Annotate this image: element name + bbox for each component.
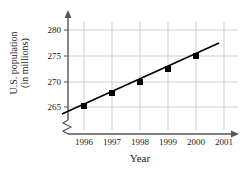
- y-axis: [63, 10, 71, 134]
- population-line-chart: 280 275 270 265 1996 1997 1998 1999 2000…: [0, 0, 245, 175]
- x-tick-label-1999: 1999: [154, 137, 182, 147]
- x-tick-label-2001: 2001: [210, 137, 238, 147]
- y-tick-label-275: 275: [37, 51, 61, 61]
- y-tick-label-280: 280: [37, 25, 61, 35]
- data-point-2000[interactable]: [193, 53, 199, 59]
- horizontal-gridlines: [68, 30, 238, 107]
- x-tick-label-1997: 1997: [98, 137, 126, 147]
- y-tick-label-270: 270: [37, 77, 61, 87]
- vertical-gridlines: [84, 22, 224, 130]
- data-point-1997[interactable]: [109, 90, 115, 96]
- x-tick-label-1998: 1998: [126, 137, 154, 147]
- y-axis-title: U.S. population (in millions): [8, 0, 30, 128]
- x-axis-title: Year: [110, 152, 170, 164]
- y-axis-title-line1: U.S. population: [8, 0, 19, 128]
- data-point-1996[interactable]: [81, 103, 87, 109]
- x-tick-label-1996: 1996: [70, 137, 98, 147]
- y-tick-label-265: 265: [37, 102, 61, 112]
- data-point-1999[interactable]: [165, 66, 171, 72]
- data-point-1998[interactable]: [137, 79, 143, 85]
- y-axis-break-symbol: [63, 120, 71, 134]
- x-tick-label-2000: 2000: [182, 137, 210, 147]
- y-axis-title-line2: (in millions): [19, 0, 30, 128]
